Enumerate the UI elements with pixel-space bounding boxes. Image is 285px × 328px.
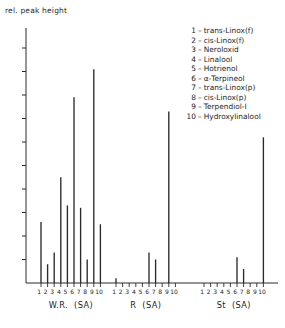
x-tick-label-9: 9 (164, 288, 171, 295)
group-label-sub: (SA) (74, 300, 93, 310)
group-label-sub: (SA) (232, 300, 251, 310)
x-tick-labels-group-2: 12345678910 (199, 288, 265, 295)
x-tick-label-1: 1 (36, 288, 43, 295)
x-tick-label-1: 1 (199, 288, 206, 295)
x-tick-label-5: 5 (62, 288, 69, 295)
x-tick-label-10: 10 (170, 288, 177, 295)
group-label-sub: (SA) (142, 300, 161, 310)
x-tick-label-9: 9 (89, 288, 96, 295)
x-tick-label-8: 8 (245, 288, 252, 295)
x-tick-label-10: 10 (95, 288, 102, 295)
x-tick-label-5: 5 (225, 288, 232, 295)
x-tick-label-7: 7 (75, 288, 82, 295)
group-label-main: W.R. (49, 300, 68, 310)
x-tick-label-5: 5 (137, 288, 144, 295)
x-tick-label-3: 3 (49, 288, 56, 295)
x-tick-label-8: 8 (82, 288, 89, 295)
x-tick-labels-group-0: 12345678910 (36, 288, 102, 295)
x-tick-label-4: 4 (219, 288, 226, 295)
x-tick-label-9: 9 (252, 288, 259, 295)
x-tick-labels-group-1: 12345678910 (111, 288, 177, 295)
x-tick-label-6: 6 (69, 288, 76, 295)
x-tick-label-2: 2 (42, 288, 49, 295)
x-tick-label-10: 10 (258, 288, 265, 295)
x-tick-label-7: 7 (238, 288, 245, 295)
x-tick-label-4: 4 (131, 288, 138, 295)
x-tick-label-6: 6 (232, 288, 239, 295)
group-label-main: St (217, 300, 226, 310)
x-tick-label-2: 2 (117, 288, 124, 295)
x-tick-label-6: 6 (144, 288, 151, 295)
x-tick-label-3: 3 (212, 288, 219, 295)
x-tick-label-7: 7 (150, 288, 157, 295)
chart-container: rel. peak height 1–trans-Linox(f)2–cis-L… (0, 0, 285, 328)
x-tick-label-3: 3 (124, 288, 131, 295)
group-label-0: W.R. (SA) (49, 300, 93, 310)
x-tick-label-8: 8 (157, 288, 164, 295)
plot-area (0, 0, 285, 328)
x-tick-label-4: 4 (56, 288, 63, 295)
x-tick-label-2: 2 (205, 288, 212, 295)
group-label-1: R (SA) (130, 300, 161, 310)
group-label-2: St (SA) (217, 300, 251, 310)
x-tick-label-1: 1 (111, 288, 118, 295)
